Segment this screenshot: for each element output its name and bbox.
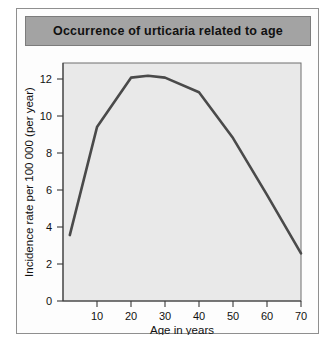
x-tick-label: 60 [261,310,273,322]
y-axis-ticks [57,79,63,301]
plot-background [63,63,301,301]
y-tick-label: 4 [46,221,52,233]
y-tick-label: 12 [40,73,52,85]
x-tick-label: 10 [91,310,103,322]
y-tick-label: 0 [46,295,52,307]
y-tick-label: 10 [40,110,52,122]
x-axis-ticks [97,301,301,307]
y-tick-label: 8 [46,147,52,159]
y-tick-label: 2 [46,258,52,270]
chart-plot: 0 2 4 6 8 10 12 10 20 30 40 50 60 70 Age… [17,9,320,335]
x-axis-title: Age in years [150,324,214,335]
x-tick-label: 40 [193,310,205,322]
y-tick-labels: 0 2 4 6 8 10 12 [40,73,52,307]
y-tick-label: 6 [46,184,52,196]
y-axis-title: Incidence rate per 100 000 (per year) [23,87,35,277]
figure-card: Occurrence of urticaria related to age [16,8,319,334]
x-tick-labels: 10 20 30 40 50 60 70 [91,310,307,322]
x-tick-label: 30 [159,310,171,322]
x-tick-label: 50 [227,310,239,322]
x-tick-label: 70 [295,310,307,322]
x-tick-label: 20 [125,310,137,322]
